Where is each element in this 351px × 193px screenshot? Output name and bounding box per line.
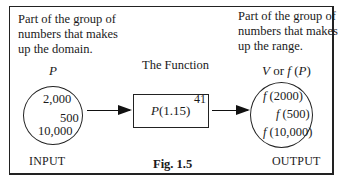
output-value: f (500) [276, 107, 310, 122]
domain-description-line: Part of the group of [18, 12, 118, 27]
arrow-right-icon [87, 110, 130, 111]
range-description-line: up the range. [238, 39, 338, 54]
domain-description-line: up the domain. [18, 42, 118, 57]
input-label: INPUT [29, 154, 65, 169]
figure-caption: Fig. 1.5 [153, 157, 192, 172]
output-label: OUTPUT [272, 154, 321, 169]
input-variable: P [49, 63, 57, 79]
function-title: The Function [142, 58, 209, 73]
input-value: 2,000 [43, 92, 71, 107]
function-base-rest: (1.15) [159, 103, 190, 118]
output-variable: V or f (P) [262, 63, 311, 79]
domain-description-line: numbers that makes [18, 27, 118, 42]
function-exponent: 41 [194, 92, 206, 107]
output-value: f (10,000) [263, 125, 312, 140]
arrow-right-icon [212, 110, 248, 111]
domain-description: Part of the group of numbers that makes … [18, 12, 118, 57]
range-description-line: numbers that makes [238, 24, 338, 39]
output-value: f (2000) [263, 89, 303, 104]
input-value: 10,000 [38, 124, 72, 139]
range-description: Part of the group of numbers that makes … [238, 9, 338, 54]
range-description-line: Part of the group of [238, 9, 338, 24]
function-expression: PP(1.15)(1.15) [151, 103, 190, 119]
